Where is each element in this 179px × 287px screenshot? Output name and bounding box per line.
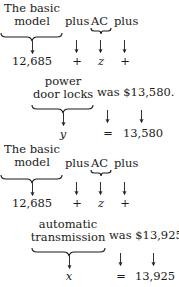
down-arrow-icon xyxy=(99,182,103,196)
down-arrow-icon xyxy=(123,182,127,196)
label-line: transmission xyxy=(30,231,106,244)
plus-symbol: + xyxy=(70,197,84,210)
down-arrow-icon xyxy=(99,40,103,54)
down-arrow-icon xyxy=(140,110,144,124)
down-arrow-icon xyxy=(152,253,156,267)
ac-label: AC xyxy=(91,15,108,28)
down-arrow-icon xyxy=(123,40,127,54)
variable-z: z xyxy=(94,197,108,210)
down-arrow-icon xyxy=(75,40,79,54)
was-total-text: was $13,925. xyxy=(109,229,179,242)
plus-word: plus xyxy=(65,15,89,28)
automatic-transmission-label: automatic transmission xyxy=(30,218,106,244)
basic-model-value: 12,685 xyxy=(10,55,54,68)
ac-label: AC xyxy=(91,157,108,170)
plus-word: plus xyxy=(65,157,89,170)
label-line: model xyxy=(2,15,62,28)
label-line: model xyxy=(2,156,62,169)
down-arrow-icon xyxy=(31,183,35,197)
down-arrow-icon xyxy=(106,110,110,124)
down-arrow-icon xyxy=(75,182,79,196)
plus-word: plus xyxy=(114,15,138,28)
total-value: 13,925 xyxy=(132,270,178,283)
plus-symbol: + xyxy=(118,197,132,210)
was-total-text: was $13,580. xyxy=(97,86,174,99)
plus-word: plus xyxy=(114,157,138,170)
plus-symbol: + xyxy=(70,55,84,68)
down-arrow-icon xyxy=(119,253,123,267)
total-value: 13,580 xyxy=(121,127,165,140)
basic-model-value: 12,685 xyxy=(10,197,54,210)
variable-x: x xyxy=(62,270,76,283)
power-door-locks-label: power door locks xyxy=(33,75,93,101)
equals-symbol: = xyxy=(114,270,128,283)
variable-z: z xyxy=(94,55,108,68)
underbrace-icon xyxy=(90,170,112,177)
basic-model-label: The basic model xyxy=(2,2,62,28)
down-arrow-icon xyxy=(62,113,66,127)
variable-y: y xyxy=(56,128,70,141)
label-line: door locks xyxy=(33,88,93,101)
down-arrow-icon xyxy=(68,256,72,270)
equals-symbol: = xyxy=(101,127,115,140)
down-arrow-icon xyxy=(31,41,35,55)
basic-model-label: The basic model xyxy=(2,143,62,169)
plus-symbol: + xyxy=(118,55,132,68)
underbrace-icon xyxy=(90,28,112,35)
